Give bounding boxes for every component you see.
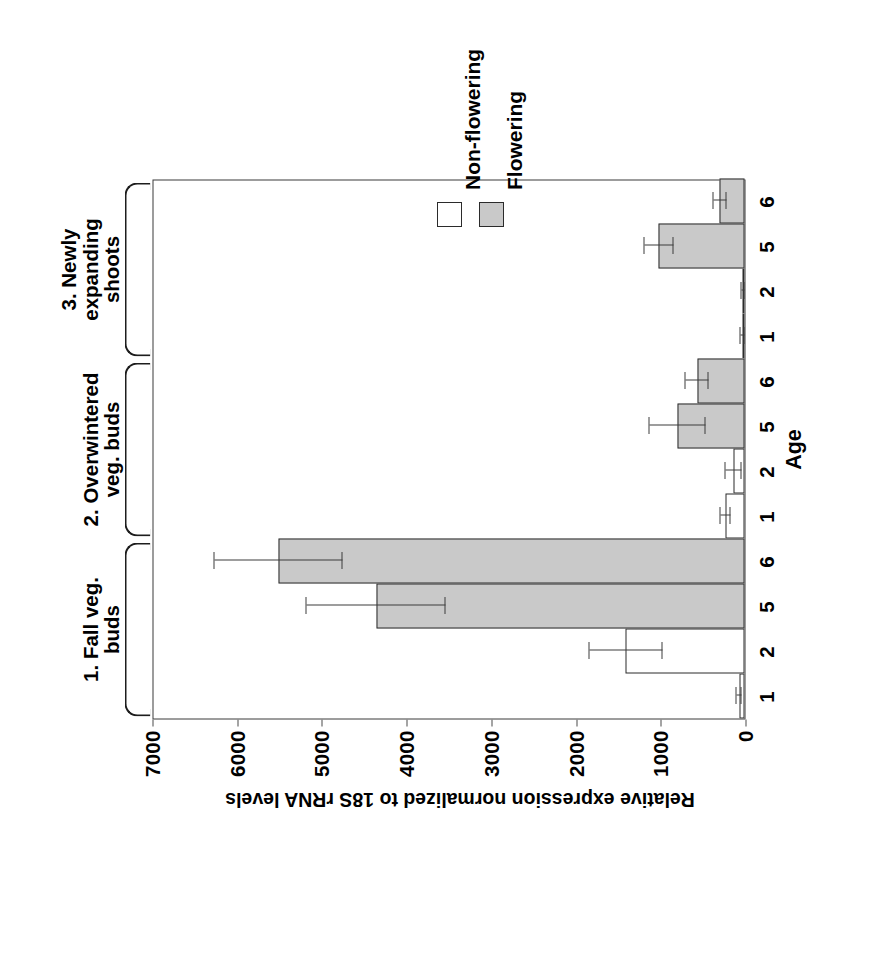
value-axis-title: Relative expression normalized to 18S rR… — [180, 788, 740, 811]
error-cap-lower-group2-age5 — [705, 418, 706, 435]
category-label-group3-age6: 6 — [755, 196, 779, 207]
legend: Non-floweringFlowering — [437, 14, 557, 229]
error-cap-lower-group3-age5 — [673, 238, 674, 255]
error-bar-group1-age6 — [214, 560, 343, 561]
plot-area — [153, 180, 746, 720]
bar-group1-age6 — [279, 539, 745, 584]
group-bracket-3 — [125, 183, 151, 357]
category-label-group2-age6: 6 — [755, 376, 779, 387]
error-cap-lower-group2-age1 — [730, 508, 731, 525]
bar-group1-age5 — [376, 584, 745, 629]
error-cap-lower-group3-age2 — [743, 283, 744, 300]
bar-group3-age6 — [720, 179, 745, 224]
bar-group2-age6 — [697, 359, 744, 404]
error-cap-lower-group2-age6 — [708, 373, 709, 390]
category-label-group2-age5: 5 — [755, 421, 779, 432]
group-label-1: 1. Fall veg. buds — [79, 577, 122, 682]
error-bar-group2-age6 — [686, 380, 709, 381]
category-axis-title: Age — [782, 180, 807, 720]
group-bracket-1 — [125, 543, 151, 717]
value-tick-label-4000: 4000 — [395, 731, 419, 777]
category-label-group2-age1: 1 — [755, 511, 779, 522]
value-tick-label-1000: 1000 — [649, 731, 673, 777]
category-label-group2-age2: 2 — [755, 466, 779, 477]
value-tick-0 — [746, 720, 747, 727]
bar-group2-age2 — [734, 449, 745, 494]
category-label-group1-age2: 2 — [755, 646, 779, 657]
legend-swatch-nonflowering — [437, 202, 462, 227]
category-label-group1-age6: 6 — [755, 556, 779, 567]
bar-group2-age5 — [678, 404, 745, 449]
legend-label-flowering: Flowering — [503, 91, 527, 190]
error-cap-upper-group2-age5 — [649, 418, 650, 435]
error-cap-upper-group3-age2 — [741, 283, 742, 300]
error-cap-upper-group1-age2 — [588, 643, 589, 660]
category-label-group3-age5: 5 — [755, 241, 779, 252]
error-bar-group1-age2 — [589, 650, 662, 651]
value-tick-label-7000: 7000 — [141, 731, 165, 777]
error-cap-lower-group1-age2 — [661, 643, 662, 660]
error-cap-upper-group3-age1 — [739, 328, 740, 345]
bars-layer — [154, 181, 745, 719]
bar-group2-age1 — [725, 494, 744, 539]
error-bar-group2-age2 — [725, 470, 741, 471]
error-cap-upper-group3-age5 — [643, 238, 644, 255]
value-tick-6000 — [237, 720, 238, 727]
error-cap-lower-group2-age2 — [741, 463, 742, 480]
error-cap-upper-group1-age1 — [736, 688, 737, 705]
value-tick-label-3000: 3000 — [479, 731, 503, 777]
error-cap-lower-group1-age5 — [444, 598, 445, 615]
value-tick-3000 — [491, 720, 492, 727]
category-label-group3-age2: 2 — [755, 286, 779, 297]
error-cap-upper-group2-age1 — [719, 508, 720, 525]
figure-root: 1. Fall veg. buds2. Overwintered veg. bu… — [0, 0, 875, 972]
category-label-group1-age5: 5 — [755, 601, 779, 612]
error-cap-upper-group2-age2 — [724, 463, 725, 480]
chart-canvas: 1. Fall veg. buds2. Overwintered veg. bu… — [79, 157, 797, 816]
value-tick-2000 — [576, 720, 577, 727]
error-cap-upper-group3-age6 — [713, 193, 714, 210]
error-cap-upper-group1-age5 — [306, 598, 307, 615]
legend-swatch-flowering — [479, 202, 504, 227]
error-cap-upper-group2-age6 — [685, 373, 686, 390]
group-label-2: 2. Overwintered veg. buds — [79, 373, 122, 527]
error-cap-lower-group3-age1 — [743, 328, 744, 345]
error-bar-group3-age5 — [644, 245, 674, 246]
error-cap-lower-group3-age6 — [725, 193, 726, 210]
error-cap-lower-group1-age6 — [342, 553, 343, 570]
group-bracket-container: 1. Fall veg. buds2. Overwintered veg. bu… — [79, 180, 153, 720]
legend-label-nonflowering: Non-flowering — [461, 49, 485, 190]
error-cap-upper-group1-age6 — [213, 553, 214, 570]
value-tick-1000 — [661, 720, 662, 727]
value-tick-5000 — [322, 720, 323, 727]
error-cap-lower-group1-age1 — [741, 688, 742, 705]
group-bracket-2 — [125, 363, 151, 537]
category-label-group3-age1: 1 — [755, 331, 779, 342]
bar-group1-age2 — [626, 629, 745, 674]
value-tick-label-6000: 6000 — [225, 731, 249, 777]
value-tick-4000 — [407, 720, 408, 727]
value-tick-label-2000: 2000 — [564, 731, 588, 777]
value-tick-7000 — [153, 720, 154, 727]
category-axis-labels: 125612561256 — [746, 180, 786, 720]
value-tick-label-0: 0 — [734, 731, 758, 743]
error-bar-group2-age5 — [650, 425, 706, 426]
group-label-3: 3. Newly expanding shoots — [57, 218, 122, 321]
category-label-group1-age1: 1 — [755, 691, 779, 702]
value-tick-label-5000: 5000 — [310, 731, 334, 777]
error-bar-group1-age5 — [307, 605, 446, 606]
